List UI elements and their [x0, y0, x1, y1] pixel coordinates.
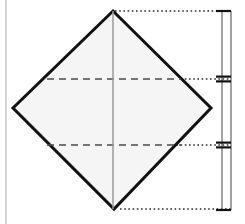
folded-sheet-diagram [0, 0, 245, 224]
dimension-tick-group [216, 11, 231, 210]
folded-sheet-outline [13, 11, 211, 209]
diagram-canvas [0, 0, 245, 224]
dimension-line-group [222, 11, 231, 210]
